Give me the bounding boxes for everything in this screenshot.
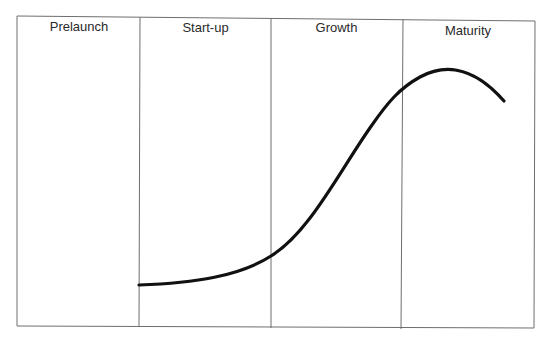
stage-label-startup: Start-up bbox=[140, 20, 271, 35]
stage-label-growth: Growth bbox=[271, 20, 402, 35]
diagram-frame bbox=[17, 16, 535, 328]
lifecycle-diagram bbox=[0, 0, 551, 343]
divider-prelaunch-startup bbox=[139, 17, 140, 327]
lifecycle-curve bbox=[139, 69, 504, 285]
divider-growth-maturity bbox=[401, 19, 403, 329]
stage-label-prelaunch: Prelaunch bbox=[18, 19, 140, 34]
stage-label-maturity: Maturity bbox=[402, 23, 534, 38]
